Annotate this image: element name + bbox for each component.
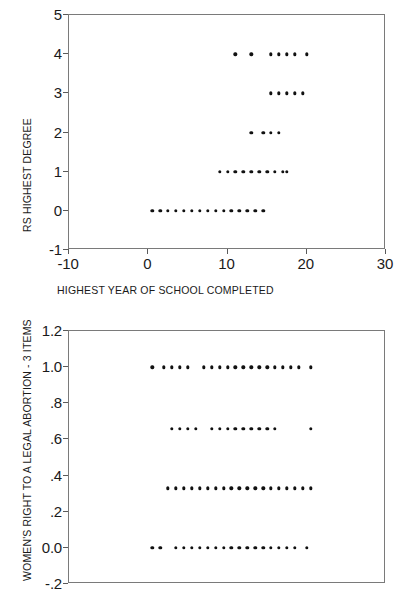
data-point [202,365,205,368]
data-point [234,52,237,55]
data-point [301,92,304,95]
data-point [186,427,189,430]
y-tick-label: 2 [54,124,62,139]
y-tick-label: 1 [54,163,62,178]
data-point [285,92,288,95]
data-points-bottom [69,331,384,582]
data-point [218,427,221,430]
y-tick-label: 4 [54,46,62,61]
data-point [242,170,245,173]
data-point [226,170,229,173]
plot-area-top [68,14,385,249]
data-point [273,427,276,430]
data-point [194,427,197,430]
data-point [277,131,280,134]
x-tick-label: 30 [377,256,393,271]
data-point [293,92,296,95]
data-point [178,427,181,430]
data-point [234,427,237,430]
data-point [214,209,217,212]
data-point [246,209,249,212]
y-tick-mark [63,547,68,548]
data-point [305,546,308,549]
data-point [277,487,280,490]
data-point [162,365,165,368]
x-tick-mark [385,249,386,254]
y-axis-title-bottom: WOMEN'S RIGHT TO A LEGAL ABORTION - 3 IT… [22,319,33,581]
data-point [242,427,245,430]
data-point [222,487,225,490]
data-point [289,365,292,368]
data-point [281,365,284,368]
data-point [198,546,201,549]
data-point [254,209,257,212]
data-point [151,365,154,368]
data-point [178,365,181,368]
data-point [261,209,264,212]
data-point [297,365,300,368]
data-point [277,546,280,549]
data-point [261,487,264,490]
data-point [182,209,185,212]
y-tick-mark [63,366,68,367]
data-point [151,209,154,212]
x-tick-label: 20 [298,256,314,271]
data-point [285,170,288,173]
plot-area-bottom [68,330,385,583]
y-tick-label: 5 [54,7,62,22]
x-tick-mark [227,249,228,254]
data-point [250,170,253,173]
y-tick-mark [63,132,68,133]
x-tick-label: 0 [143,256,151,271]
data-point [257,170,260,173]
y-tick-mark [63,330,68,331]
data-point [277,52,280,55]
y-tick-mark [63,14,68,15]
y-tick-mark [63,171,68,172]
data-point [254,487,257,490]
data-point [222,209,225,212]
data-point [277,92,280,95]
data-point [158,546,161,549]
y-tick-mark [63,402,68,403]
data-point [238,487,241,490]
data-point [293,546,296,549]
y-axis-title-top: RS HIGHEST DEGREE [22,118,33,232]
y-tick-label: 1.2 [42,323,62,338]
x-tick-label: -10 [57,256,78,271]
data-point [305,52,308,55]
data-point [206,546,209,549]
data-point [293,52,296,55]
data-point [257,427,260,430]
data-point [261,131,264,134]
data-point [186,365,189,368]
data-point [281,170,284,173]
data-point [269,92,272,95]
data-point [226,365,229,368]
data-point [265,365,268,368]
y-tick-label: 3 [54,85,62,100]
data-point [265,170,268,173]
data-point [182,487,185,490]
data-point [151,546,154,549]
y-tick-label: .2 [50,503,62,518]
data-point [257,365,260,368]
y-tick-mark [63,92,68,93]
data-point [309,487,312,490]
data-point [285,546,288,549]
data-point [250,52,253,55]
y-tick-label: .8 [50,395,62,410]
data-point [269,52,272,55]
data-point [238,209,241,212]
y-tick-mark [63,438,68,439]
data-point [170,427,173,430]
data-point [190,209,193,212]
y-tick-mark [63,583,68,584]
data-point [218,365,221,368]
y-tick-mark [63,475,68,476]
data-point [222,546,225,549]
y-tick-label: 0.0 [42,539,62,554]
data-point [210,365,213,368]
data-point [170,365,173,368]
data-point [174,209,177,212]
